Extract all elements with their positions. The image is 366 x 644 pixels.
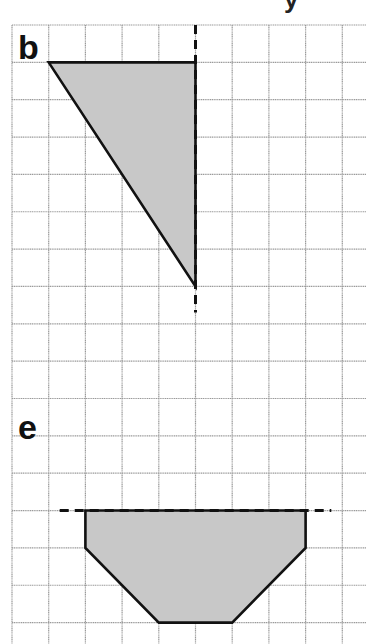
panel-label-b: b	[18, 30, 39, 64]
shapes-layer	[49, 62, 306, 622]
worksheet-page: y b e	[0, 0, 366, 644]
hexagon-trapezoid-shape	[85, 511, 305, 623]
panel-label-e: e	[18, 410, 37, 444]
grid-drawing	[0, 0, 366, 644]
